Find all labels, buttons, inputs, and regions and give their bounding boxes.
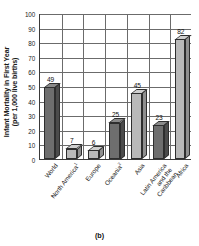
figure-caption: (b) bbox=[0, 231, 199, 240]
bar-value-label: 25 bbox=[112, 111, 119, 118]
bar-side-face bbox=[99, 147, 104, 159]
bar-front-face bbox=[153, 125, 164, 159]
y-axis-tick-label: 90 bbox=[20, 25, 35, 32]
vertical-gridline bbox=[170, 14, 171, 159]
bar-side-face bbox=[77, 145, 82, 159]
bar-side-face bbox=[142, 90, 147, 159]
plot-area: 497625452382 bbox=[39, 14, 191, 160]
bar-column: 6 bbox=[88, 150, 99, 159]
y-axis-tick-labels: 0102030405060708090100 bbox=[20, 14, 35, 160]
y-axis-tick-label: 60 bbox=[20, 69, 35, 76]
bar-column: 25 bbox=[109, 123, 120, 160]
bar-side-face bbox=[164, 122, 169, 159]
bar-front-face bbox=[44, 87, 55, 159]
y-axis-tick-label: 40 bbox=[20, 98, 35, 105]
bar-column: 82 bbox=[175, 39, 186, 159]
bar-side-face bbox=[120, 119, 125, 159]
x-axis-category-label: Oceania2 bbox=[103, 162, 125, 187]
vertical-gridline bbox=[62, 14, 63, 159]
bar-front-face bbox=[66, 149, 77, 159]
bar-front-face bbox=[88, 150, 99, 159]
x-axis-category-label: Latin Americaand theCaribbean bbox=[138, 162, 178, 205]
x-axis-category-label: Africa bbox=[174, 162, 190, 179]
vertical-gridline bbox=[149, 14, 150, 159]
y-axis-tick-label: 100 bbox=[20, 11, 35, 18]
bar-value-label: 45 bbox=[134, 82, 141, 89]
y-axis-tick-label: 50 bbox=[20, 84, 35, 91]
x-axis-category-label: Europe bbox=[84, 162, 102, 182]
y-axis-title-container: Infant Mortality in First Year (per 1,00… bbox=[0, 12, 22, 172]
y-axis-title-line1: Infant Mortality in First Year bbox=[3, 47, 11, 137]
bar-front-face bbox=[175, 39, 186, 159]
figure-infant-mortality-bar-chart: Infant Mortality in First Year (per 1,00… bbox=[0, 0, 199, 246]
y-axis-title: Infant Mortality in First Year (per 1,00… bbox=[3, 47, 20, 137]
vertical-gridline bbox=[105, 14, 106, 159]
y-axis-tick-label: 80 bbox=[20, 40, 35, 47]
bar-column: 7 bbox=[66, 149, 77, 159]
bar-column: 45 bbox=[131, 93, 142, 159]
bar-column: 23 bbox=[153, 125, 164, 159]
x-axis-category-label-line: Asia bbox=[133, 162, 146, 176]
y-axis-tick-label: 0 bbox=[20, 157, 35, 164]
bar-front-face bbox=[109, 123, 120, 160]
y-axis-title-line2: (per 1,000 live births) bbox=[11, 58, 19, 127]
bar-side-face bbox=[55, 84, 60, 159]
bar-value-label: 82 bbox=[177, 28, 184, 35]
x-axis-category-label-line: Europe bbox=[84, 162, 102, 182]
vertical-gridline bbox=[83, 14, 84, 159]
bar-front-face bbox=[131, 93, 142, 159]
y-axis-tick-label: 70 bbox=[20, 54, 35, 61]
x-axis-category-label-line: Oceania bbox=[103, 164, 123, 187]
x-axis-category-label: Asia bbox=[133, 162, 146, 176]
bar-value-label: 49 bbox=[47, 76, 54, 83]
vertical-gridline bbox=[127, 14, 128, 159]
x-axis-category-label-line: World bbox=[43, 162, 59, 179]
x-axis-category-label-line: Africa bbox=[174, 162, 189, 179]
bar-side-face bbox=[185, 36, 190, 159]
y-axis-tick-label: 30 bbox=[20, 113, 35, 120]
y-axis-tick-label: 20 bbox=[20, 127, 35, 134]
bar-value-label: 23 bbox=[155, 114, 162, 121]
bar-value-label: 6 bbox=[92, 139, 96, 146]
x-axis-category-label: World bbox=[43, 162, 59, 179]
x-axis-category-labels: WorldNorth America1EuropeOceania2AsiaLat… bbox=[39, 162, 191, 234]
y-axis-tick-label: 10 bbox=[20, 142, 35, 149]
bar-value-label: 7 bbox=[70, 137, 74, 144]
bar-column: 49 bbox=[44, 87, 55, 159]
